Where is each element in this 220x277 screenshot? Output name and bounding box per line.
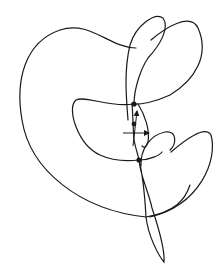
curve-upper-right-petal (132, 21, 202, 104)
orientation-axes-icon (123, 111, 149, 146)
knot-diagram-svg (0, 0, 220, 277)
curve-outer-lobe (20, 28, 190, 217)
node-bottom (136, 157, 141, 162)
node-top (131, 101, 136, 106)
node-middle (132, 122, 137, 127)
curve-middle-band (72, 99, 162, 161)
curve-lower-inner-loop (138, 104, 148, 147)
curve-center-spine (132, 104, 139, 160)
curve-strands (20, 17, 213, 262)
curve-bottom-tail (139, 160, 164, 262)
knot-diagram (0, 0, 220, 277)
